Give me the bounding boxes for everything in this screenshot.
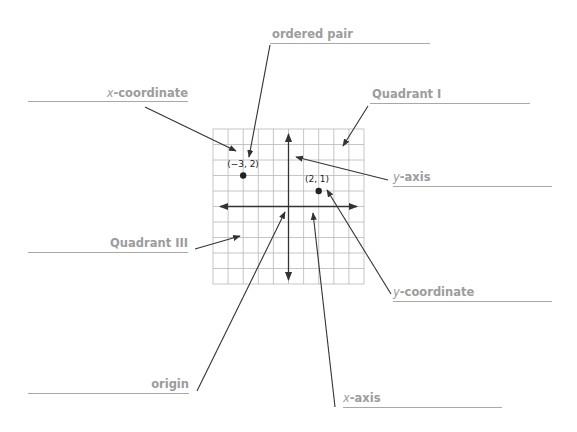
label-x-coordinate: x-coordinate	[96, 86, 188, 100]
answer-line-x-coordinate	[28, 101, 188, 102]
label-quadrant-1: Quadrant I	[372, 87, 441, 101]
coordinate-plane-diagram: (−3, 2) (2, 1)	[0, 0, 577, 432]
label-y-coordinate: y-coordinate	[393, 285, 474, 299]
arrow-quadrant-3	[195, 236, 240, 249]
arrow-x-axis	[313, 213, 335, 407]
arrow-y-coordinate	[327, 190, 391, 294]
answer-line-quadrant-1	[370, 103, 530, 104]
point-label-2-1: (2, 1)	[305, 174, 329, 184]
label-x-axis: x-axis	[343, 391, 381, 405]
answer-line-y-coordinate	[393, 301, 552, 302]
arrow-ordered-pair	[249, 45, 270, 157]
point-2-1	[316, 188, 322, 194]
answer-line-ordered-pair	[270, 43, 430, 44]
label-origin: origin	[96, 377, 189, 391]
label-y-axis: y-axis	[393, 170, 431, 184]
point-label-neg3-2: (−3, 2)	[227, 159, 259, 169]
plotted-points: (−3, 2) (2, 1)	[227, 159, 329, 194]
answer-line-quadrant-3	[28, 252, 188, 253]
point-neg3-2	[240, 172, 246, 178]
answer-line-y-axis	[393, 186, 552, 187]
label-ordered-pair: ordered pair	[272, 27, 353, 41]
label-quadrant-3: Quadrant III	[96, 236, 188, 250]
axes	[220, 134, 357, 280]
answer-line-origin	[28, 393, 189, 394]
answer-line-x-axis	[343, 407, 502, 408]
arrow-origin	[197, 212, 285, 391]
